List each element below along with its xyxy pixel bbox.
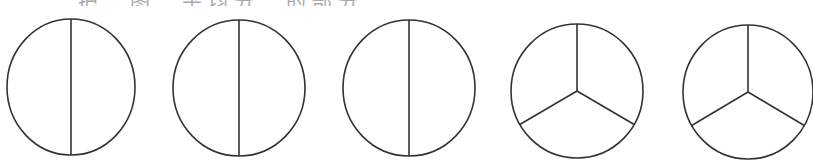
circle-5-divided-3 — [683, 25, 813, 159]
circle-1-divided-2 — [7, 19, 135, 155]
radius-line — [748, 92, 804, 126]
circle-2-divided-2 — [173, 20, 305, 156]
radius-line — [577, 91, 634, 125]
circle-4-divided-3 — [511, 24, 643, 158]
circle-3-divided-2 — [343, 20, 475, 156]
divided-circles-diagram — [0, 0, 813, 168]
radius-line — [692, 92, 748, 126]
radius-line — [520, 91, 577, 125]
